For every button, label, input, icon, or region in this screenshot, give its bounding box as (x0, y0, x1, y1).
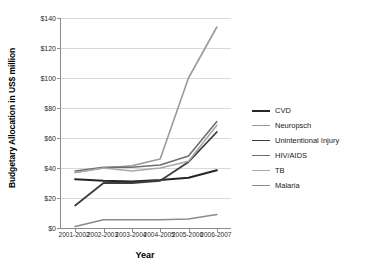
legend-label: CVD (275, 106, 291, 115)
x-axis-title: Year (60, 250, 230, 260)
series-line-neuropsch (75, 27, 217, 173)
legend: CVDNeuropschUnintentional InjuryHIV/AIDS… (252, 103, 388, 193)
legend-item[interactable]: Malaria (252, 178, 388, 193)
series-line-malaria (75, 215, 217, 227)
series-line-hiv-aids (75, 122, 217, 172)
y-axis-tick-mark (57, 78, 61, 79)
legend-label: HIV/AIDS (275, 151, 307, 160)
y-axis-tick-mark (57, 18, 61, 19)
y-axis-tick-labels: $0$20$40$60$80$100$120$140 (18, 0, 56, 236)
x-axis-tick-label: 2002-2003 (87, 231, 118, 238)
y-axis-tick-label: $140 (40, 15, 56, 22)
legend-label: TB (275, 166, 285, 175)
series-lines (61, 18, 231, 228)
y-axis-tick-label: $120 (40, 45, 56, 52)
legend-swatch-icon (252, 110, 270, 112)
y-axis-tick-mark (57, 168, 61, 169)
y-axis-tick-label: $80 (44, 105, 56, 112)
plot-area (60, 18, 231, 229)
legend-item[interactable]: TB (252, 163, 388, 178)
y-axis-tick-mark (57, 108, 61, 109)
legend-item[interactable]: HIV/AIDS (252, 148, 388, 163)
y-axis-tick-mark (57, 48, 61, 49)
y-axis-title-text: Budgetary Allocation in US$ million (7, 48, 17, 188)
legend-item[interactable]: Unintentional Injury (252, 133, 388, 148)
y-axis-tick-label: $20 (44, 195, 56, 202)
line-chart: Budgetary Allocation in US$ million $0$2… (0, 0, 391, 278)
y-axis-tick-mark (57, 198, 61, 199)
y-axis-tick-label: $60 (44, 135, 56, 142)
legend-swatch-icon (252, 155, 270, 156)
x-axis-tick-label: 2004-2005 (144, 231, 175, 238)
x-axis-tick-label: 2001-2002 (59, 231, 90, 238)
legend-label: Malaria (275, 181, 300, 190)
legend-label: Unintentional Injury (275, 136, 339, 145)
legend-swatch-icon (252, 170, 270, 171)
y-axis-tick-label: $40 (44, 165, 56, 172)
y-axis-tick-label: $100 (40, 75, 56, 82)
legend-swatch-icon (252, 125, 270, 126)
legend-swatch-icon (252, 140, 270, 141)
legend-item[interactable]: CVD (252, 103, 388, 118)
x-axis-tick-label: 2006-2007 (200, 231, 231, 238)
y-axis-tick-label: $0 (48, 225, 56, 232)
series-line-cvd (75, 170, 217, 181)
y-axis-tick-mark (57, 138, 61, 139)
x-axis-tick-label: 2005-2006 (172, 231, 203, 238)
legend-swatch-icon (252, 185, 270, 186)
legend-item[interactable]: Neuropsch (252, 118, 388, 133)
x-axis-tick-labels: 2001-20022002-20032003-20042004-20052005… (56, 231, 296, 245)
y-axis-tick-mark (57, 228, 61, 229)
x-axis-tick-label: 2003-2004 (115, 231, 146, 238)
legend-label: Neuropsch (275, 121, 311, 130)
